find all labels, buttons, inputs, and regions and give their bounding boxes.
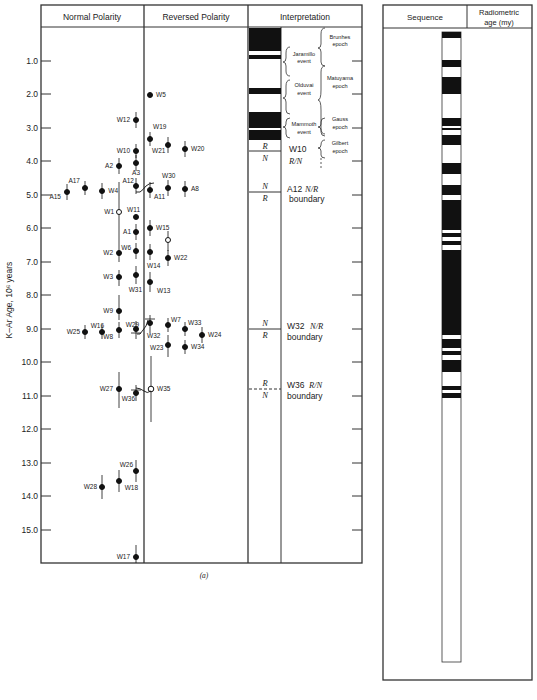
point-label: W2 xyxy=(103,249,113,256)
point-label: W26 xyxy=(120,461,134,468)
panel-a-frame xyxy=(41,5,362,563)
w36-pol: R/N xyxy=(308,380,324,390)
y-axis: 1.0 2.0 3.0 4.0 5.0 6.0 7.0 8.0 9.0 10.0… xyxy=(21,56,362,535)
point-label: W12 xyxy=(117,116,131,123)
y-tick-label: 15.0 xyxy=(21,525,38,535)
y-tick-label: 10.0 xyxy=(21,357,38,367)
polarity-letter: R xyxy=(261,141,268,151)
point-label: W28 xyxy=(84,483,98,490)
y-tick-label: 1.0 xyxy=(26,56,38,66)
strat-column xyxy=(442,32,461,662)
w36-label: W36 xyxy=(287,380,305,390)
a12-pol: N/R xyxy=(304,184,319,194)
point-label: W33 xyxy=(188,319,202,326)
point-label: W7 xyxy=(171,316,181,323)
point-label: W15 xyxy=(156,224,170,231)
y-tick-label: 2.0 xyxy=(26,89,38,99)
point-label: A12 xyxy=(122,177,134,184)
point-label: A1 xyxy=(123,228,131,235)
point-label: W8 xyxy=(103,333,113,340)
matuyama-label: Matuyama xyxy=(327,75,354,81)
point-label: A17 xyxy=(68,177,80,184)
point-label: A11 xyxy=(154,193,165,200)
polarity-letter: R xyxy=(261,193,268,203)
gauss-label: Gauss xyxy=(332,116,348,122)
y-tick-label: 4.0 xyxy=(26,156,38,166)
w32-pol: N/R xyxy=(309,321,324,331)
gauss-label: epoch xyxy=(332,124,347,130)
w10-desc: R/N xyxy=(288,156,304,166)
point-label: W1 xyxy=(104,208,114,215)
jaramillo-label: Jaramillo xyxy=(293,51,315,57)
w10-label: W10 xyxy=(289,144,307,154)
polarity-letter: R xyxy=(261,378,268,388)
matuyama-label: epoch xyxy=(332,83,347,89)
point-label: W21 xyxy=(152,147,166,154)
boundary-labels: W10 R/N A12 N/R boundary W32 N/R boundar… xyxy=(287,144,325,401)
polarity-letters: R N N R N R R N xyxy=(261,141,269,400)
w32-label: W32 xyxy=(287,321,305,331)
point-label: W36 xyxy=(122,395,136,402)
point-label: A15 xyxy=(49,193,61,200)
gilbert-label: epoch xyxy=(332,148,347,154)
figure: Normal Polarity Reversed Polarity Interp… xyxy=(0,0,537,700)
point-label: W27 xyxy=(100,385,114,392)
point-label: W32 xyxy=(147,332,161,339)
y-tick-label: 14.0 xyxy=(21,491,38,501)
olduvai-label: event xyxy=(297,90,311,96)
normal-polarity-labels: W12 W10 A2 A3 A17 A15 W4 A12 W1 W11 A1 W… xyxy=(49,116,142,560)
point-label: A3 xyxy=(132,169,140,176)
y-tick-label: 7.0 xyxy=(26,257,38,267)
point-label: W25 xyxy=(67,328,81,335)
header-reversed-polarity: Reversed Polarity xyxy=(162,12,230,22)
point-label: W24 xyxy=(208,331,222,338)
panel-a: Normal Polarity Reversed Polarity Interp… xyxy=(4,5,362,580)
point-label: A2 xyxy=(105,162,113,169)
header-normal-polarity: Normal Polarity xyxy=(63,12,122,22)
olduvai-label: Olduvai xyxy=(295,82,314,88)
point-label: W14 xyxy=(147,262,161,269)
point-label: W30 xyxy=(162,172,176,179)
point-label: W10 xyxy=(117,147,131,154)
brunhes-label: Brunhes xyxy=(330,34,351,40)
point-label: W34 xyxy=(191,343,205,350)
polarity-letter: N xyxy=(261,390,269,400)
point-label: W6 xyxy=(121,244,131,251)
point-label: W20 xyxy=(191,145,205,152)
point-label: W3 xyxy=(103,273,113,280)
y-tick-label: 5.0 xyxy=(26,190,38,200)
point-label: W11 xyxy=(127,206,140,213)
a12-label: A12 xyxy=(287,184,302,194)
point-label: W16 xyxy=(91,322,105,329)
w36-desc: boundary xyxy=(287,391,323,401)
mammoth-label: event xyxy=(297,129,311,135)
point-label: W29 xyxy=(126,321,140,328)
y-tick-label: 3.0 xyxy=(26,123,38,133)
point-label: W13 xyxy=(157,287,171,294)
y-tick-label: 11.0 xyxy=(22,391,38,401)
mammoth-label: Mammoth xyxy=(292,121,317,127)
point-label: W5 xyxy=(156,91,166,98)
point-label: W9 xyxy=(103,307,113,314)
brunhes-label: epoch xyxy=(332,41,347,47)
a12-desc: boundary xyxy=(289,194,325,204)
point-label: W22 xyxy=(174,254,188,261)
polarity-letter: N xyxy=(261,153,269,163)
jaramillo-label: event xyxy=(297,58,311,64)
panel-b: Sequence Radiometric age (my) xyxy=(383,5,532,680)
y-tick-label: 12.0 xyxy=(21,424,38,434)
point-label: W19 xyxy=(153,123,167,130)
point-label: A8 xyxy=(191,185,199,192)
y-tick-label: 8.0 xyxy=(26,290,38,300)
w32-desc: boundary xyxy=(287,332,323,342)
y-tick-label: 13.0 xyxy=(21,458,38,468)
polarity-letter: N xyxy=(261,318,269,328)
y-tick-label: 9.0 xyxy=(26,324,38,334)
point-label: W31 xyxy=(129,286,143,293)
header-age-line1: Radiometric xyxy=(479,8,519,17)
y-axis-label: K–Ar Age, 10⁶ years xyxy=(4,262,14,339)
point-label: W4 xyxy=(108,187,118,194)
header-sequence: Sequence xyxy=(407,13,444,22)
polarity-letter: N xyxy=(261,181,269,191)
panel-a-caption: (a) xyxy=(200,571,209,580)
